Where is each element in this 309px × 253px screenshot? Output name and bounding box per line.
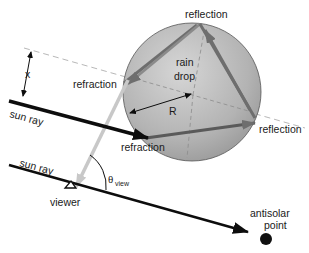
label-point: point (264, 219, 287, 231)
label-refraction-left: refraction (73, 78, 117, 90)
exit-ray-to-viewer (76, 80, 128, 187)
theta-view-arc (90, 155, 106, 190)
label-reflection-top: reflection (185, 8, 228, 20)
label-offset-x: x (25, 68, 31, 80)
label-radius: R (169, 105, 177, 117)
label-rain: rain (176, 56, 194, 68)
label-viewer: viewer (50, 196, 81, 208)
label-antisolar: antisolar (250, 207, 290, 219)
label-reflection-right: reflection (259, 123, 302, 135)
label-theta: θ (108, 173, 113, 185)
sun-ray-to-antisolar (9, 165, 248, 232)
label-drop: drop (174, 70, 195, 82)
label-refraction-bottom: refraction (121, 141, 165, 153)
label-theta-sub: view (115, 180, 130, 187)
rainbow-diagram: reflection rain drop refraction R x sun … (0, 0, 309, 253)
antisolar-point-dot (260, 233, 272, 245)
